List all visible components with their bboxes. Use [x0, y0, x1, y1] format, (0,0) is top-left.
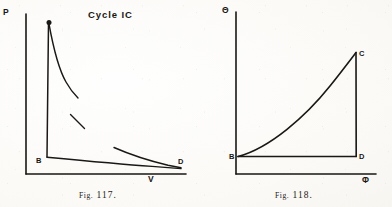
caption-prefix-117: Fig.	[79, 191, 93, 200]
curve-upper-expansion	[49, 24, 78, 98]
caption-number-118: 118.	[292, 190, 313, 200]
curve-B-to-C	[238, 53, 356, 157]
caption-prefix-118: Fig.	[275, 191, 289, 200]
figure-117-caption: Fig. 117.	[0, 190, 196, 200]
point-label-B-117: B	[36, 157, 42, 165]
y-axis-label-P: P	[3, 8, 9, 17]
figure-117: Cycle IC P V B D Fig. 117.	[0, 0, 196, 207]
point-label-D-117: D	[178, 158, 184, 166]
point-label-C-118: C	[359, 50, 365, 58]
caption-number-117: 117.	[96, 190, 117, 200]
curve-vertical-line-top-to-B	[47, 23, 49, 157]
point-label-D-118: D	[359, 153, 365, 161]
figure-118: Θ Φ B C D Fig. 118.	[196, 0, 392, 207]
y-axis-label-theta: Θ	[222, 6, 229, 15]
x-axis-label-phi: Φ	[362, 176, 369, 185]
figure-117-drawing	[0, 0, 196, 180]
figure-118-caption: Fig. 118.	[196, 190, 392, 200]
scanned-page: Cycle IC P V B D Fig. 117.	[0, 0, 392, 207]
top-point-dot	[47, 20, 52, 25]
point-label-B-118: B	[229, 153, 235, 161]
x-axis-label-V: V	[148, 175, 154, 184]
curve-mid-broken-segment	[71, 115, 85, 129]
figure-117-title: Cycle IC	[88, 9, 133, 20]
